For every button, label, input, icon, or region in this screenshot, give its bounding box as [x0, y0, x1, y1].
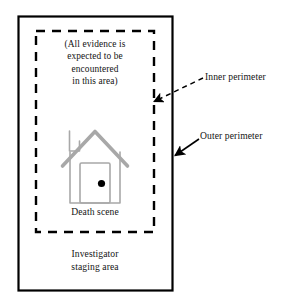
house-icon	[63, 131, 128, 203]
house-body	[70, 152, 120, 203]
outer-perimeter-leader	[175, 139, 199, 156]
investigator-staging-area-label: Investigator staging area	[30, 248, 160, 273]
evidence-note-text: (All evidence is expected to be encounte…	[36, 38, 154, 88]
inner-perimeter-leader	[154, 78, 203, 102]
doorknob-icon	[98, 180, 105, 187]
outer-perimeter-label: Outer perimeter	[200, 130, 288, 143]
roof-icon	[63, 132, 128, 167]
diagram-canvas: (All evidence is expected to be encounte…	[0, 0, 288, 305]
inner-perimeter-label: Inner perimeter	[205, 71, 288, 84]
door-icon	[80, 163, 110, 203]
death-scene-label: Death scene	[36, 206, 154, 219]
